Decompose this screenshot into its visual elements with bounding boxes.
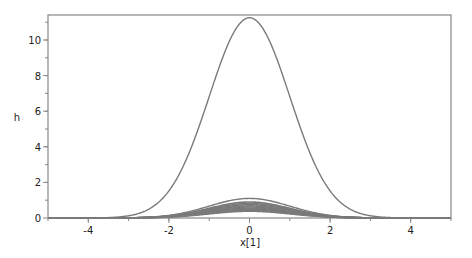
plot-curves [48,18,451,218]
x-tick-label: 4 [408,225,414,236]
y-tick-label: 0 [35,213,41,224]
x-axis-label: x[1] [240,237,260,248]
y-tick-label: 8 [35,71,41,82]
y-tick-label: 10 [28,35,41,46]
plot-frame [48,15,451,218]
curve-1 [48,18,451,218]
chart: 0246810 -4-2024 h x[1] [0,0,472,258]
x-axis: -4-2024 [48,218,451,236]
y-tick-label: 6 [35,106,41,117]
y-tick-label: 2 [35,177,41,188]
y-axis-label: h [14,112,20,123]
x-tick-label: -4 [83,225,93,236]
x-tick-label: 0 [246,225,252,236]
y-tick-label: 4 [35,142,41,153]
x-tick-label: -2 [164,225,174,236]
x-tick-label: 2 [327,225,333,236]
y-axis: 0246810 [28,22,48,224]
